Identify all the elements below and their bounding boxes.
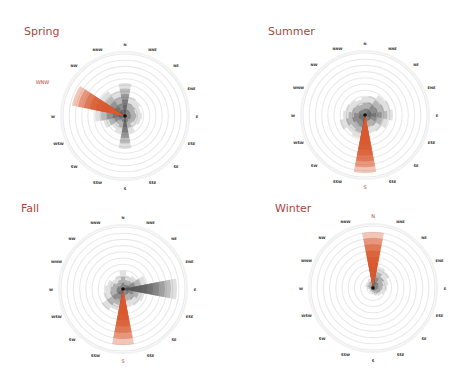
direction-label-ese: ESE — [188, 142, 196, 146]
direction-label-n: N — [123, 43, 126, 47]
direction-label-s: S — [363, 184, 366, 190]
direction-label-ne: NE — [173, 64, 179, 68]
direction-label-wsw: WSW — [293, 141, 304, 145]
direction-label-e: E — [436, 114, 439, 118]
direction-label-wnw: WNW — [36, 79, 50, 85]
direction-label-n: N — [363, 42, 366, 46]
direction-label-ssw: SSW — [91, 354, 100, 358]
direction-label-sse: SSE — [149, 181, 157, 185]
direction-label-ne: NE — [421, 236, 427, 240]
direction-label-sw: SW — [311, 164, 318, 168]
direction-label-se: SE — [421, 337, 427, 341]
direction-label-nw: NW — [69, 237, 76, 241]
direction-label-nw: NW — [319, 236, 326, 240]
direction-label-sw: SW — [69, 338, 76, 342]
direction-label-w: W — [299, 287, 303, 291]
direction-label-s: S — [372, 359, 375, 363]
direction-label-s: S — [124, 187, 127, 191]
direction-label-ene: ENE — [188, 87, 196, 91]
direction-label-w: W — [49, 288, 53, 292]
direction-label-sw: SW — [319, 337, 326, 341]
direction-label-wsw: WSW — [301, 314, 312, 318]
direction-label-nnw: NNW — [332, 47, 342, 51]
direction-label-e: E — [194, 288, 197, 292]
direction-label-sw: SW — [71, 165, 78, 169]
direction-label-se: SE — [413, 164, 419, 168]
direction-label-ese: ESE — [186, 315, 194, 319]
direction-label-e: E — [444, 287, 447, 291]
direction-label-nne: NNE — [388, 47, 397, 51]
direction-label-ssw: SSW — [93, 181, 102, 185]
direction-label-w: W — [291, 114, 295, 118]
direction-label-sse: SSE — [147, 354, 155, 358]
direction-label-ese: ESE — [436, 314, 444, 318]
direction-label-nnw: NNW — [340, 220, 350, 224]
direction-label-ene: ENE — [436, 259, 444, 263]
direction-label-nne: NNE — [396, 220, 405, 224]
direction-label-s: S — [121, 358, 124, 364]
rose-summer: NNNENEENEEESESESSESSSWSWWSWWWNWNWNNW — [291, 42, 439, 190]
direction-label-sse: SSE — [389, 180, 397, 184]
direction-label-wnw: WNW — [293, 86, 304, 90]
rose-spring: NNNENEENEEESESESSESSSWSWWSWWWNWNWNNW — [36, 43, 199, 191]
direction-label-nnw: NNW — [90, 221, 100, 225]
direction-label-ne: NE — [413, 63, 419, 67]
direction-label-wsw: WSW — [51, 315, 62, 319]
direction-label-nw: NW — [71, 64, 78, 68]
direction-label-nne: NNE — [146, 221, 155, 225]
rose-fall: NNNENEENEEESESESSESSSWSWWSWWWNWNWNNW — [49, 216, 197, 364]
direction-label-nne: NNE — [148, 48, 157, 52]
direction-label-nw: NW — [311, 63, 318, 67]
direction-label-n: N — [121, 216, 124, 220]
direction-label-se: SE — [171, 338, 177, 342]
direction-label-e: E — [196, 115, 199, 119]
direction-label-ssw: SSW — [341, 353, 350, 357]
direction-label-wnw: WNW — [301, 259, 312, 263]
wind-rose-charts: NNNENEENEEESESESSESSSWSWWSWWWNWNWNNWNNNE… — [0, 0, 467, 381]
direction-label-wsw: WSW — [53, 142, 64, 146]
direction-label-sse: SSE — [397, 353, 405, 357]
direction-label-ene: ENE — [186, 260, 194, 264]
direction-label-n: N — [371, 213, 375, 219]
direction-label-nnw: NNW — [92, 48, 102, 52]
direction-label-wnw: WNW — [51, 260, 62, 264]
direction-label-ssw: SSW — [333, 180, 342, 184]
direction-label-w: W — [51, 115, 55, 119]
rose-winter: NNNENEENEEESESESSESSSWSWWSWWWNWNWNNW — [299, 213, 447, 363]
direction-label-ne: NE — [171, 237, 177, 241]
direction-label-se: SE — [173, 165, 179, 169]
direction-label-ene: ENE — [428, 86, 436, 90]
direction-label-ese: ESE — [428, 141, 436, 145]
